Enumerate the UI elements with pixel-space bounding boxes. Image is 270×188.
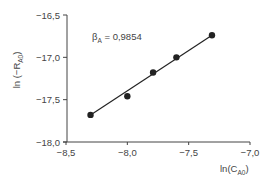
data-point (87, 112, 93, 118)
y-tick-label: −17,5 (36, 94, 60, 105)
data-point (124, 93, 130, 99)
x-tick-label: −7,0 (241, 147, 260, 158)
data-point (173, 54, 179, 60)
x-tick-label: −7,5 (179, 147, 198, 158)
y-tick-label: −17,0 (36, 52, 60, 63)
y-axis-label: ln (−RA0) (11, 52, 24, 89)
data-point (150, 69, 156, 75)
x-tick-label: −8,0 (118, 147, 137, 158)
beta-annotation: βA = 0,9854 (92, 31, 142, 44)
x-tick-label: −8,5 (57, 147, 76, 158)
y-tick-label: −18,0 (36, 137, 60, 148)
chart: −8,5−8,0−7,5−7,0−16,5−17,0−17,5−18,0 βA … (0, 0, 270, 188)
x-axis-label: ln(CA0) (220, 163, 249, 176)
y-tick-label: −16,5 (36, 10, 60, 21)
ticks: −8,5−8,0−7,5−7,0−16,5−17,0−17,5−18,0 (36, 10, 259, 159)
data-points (87, 32, 215, 118)
data-point (209, 32, 215, 38)
